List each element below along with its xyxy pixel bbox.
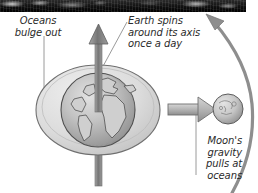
moon-gravity-arrow — [168, 97, 216, 122]
figure-canvas: Oceans bulge out Earth spins around its … — [0, 0, 258, 193]
label-oceans-bulge-out: Oceans bulge out — [8, 15, 68, 38]
moon-globe — [213, 94, 243, 124]
label-earth-spins: Earth spins around its axis once a day — [128, 15, 228, 50]
earth-axis-shaft-upper — [95, 40, 102, 112]
label-moons-gravity: Moon's gravity pulls at oceans — [186, 135, 242, 181]
earth-axis-arrowhead — [89, 24, 108, 44]
leader-line-spins — [101, 22, 127, 70]
